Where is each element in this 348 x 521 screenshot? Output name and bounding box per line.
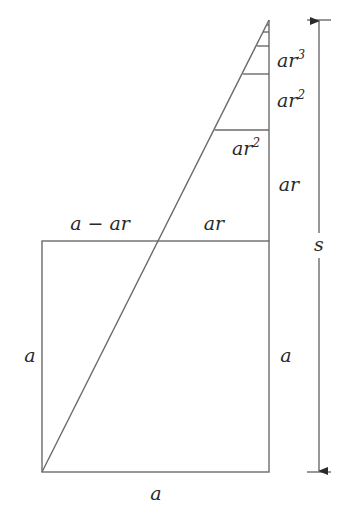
label-a-minus-ar: a − ar [70,212,132,234]
label-outer-ar2: ar2 [277,88,305,111]
label-top-ar: ar [204,212,226,234]
geometric-series-diagram: a − ar ar a a a s ar ar2 ar2 ar3 [0,0,348,521]
label-inner-ar2: ar2 [232,136,260,159]
label-ar3: ar3 [277,48,305,71]
label-bottom-a: a [150,482,161,504]
label-right-a: a [280,344,291,366]
label-seg-ar: ar [279,173,301,195]
label-left-a: a [24,344,35,366]
square [42,241,269,472]
diagonal-line [42,20,269,472]
label-s: s [314,233,324,255]
